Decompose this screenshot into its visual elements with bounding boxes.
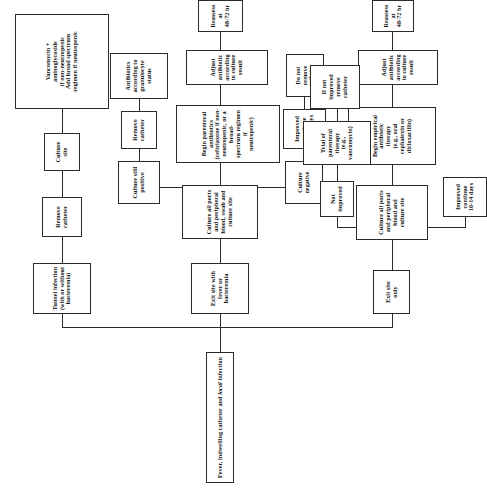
connector-trial-to-ifnotimproved: [337, 109, 338, 121]
node-not-improved: Not improved: [320, 181, 354, 217]
node-if-not-improved-remove-catheter-text: If not improved remove catheter: [321, 68, 348, 106]
node-trial-parenteral-therapy: Trial of parenteral therapy (e.g., vanco…: [303, 121, 371, 165]
node-vancomycin-regimen-text: Vancomycin + aminoglycoside if non-neutr…: [45, 31, 79, 91]
node-if-not-improved-remove-catheter: If not improved remove catheter: [310, 65, 360, 109]
node-exit-site-only-text: Exit site only: [385, 281, 399, 303]
node-begin-empirical-antibiotic-text: Begin empirical antibiotic therapy (e.g.…: [372, 110, 413, 162]
node-exit-site-with-fever-text: Exit site with fever or bacteremia: [210, 271, 230, 306]
node-reassess-mid: Reassess at 48-72 hr: [198, 0, 243, 32]
node-tunnel-infection-text: Tunnel infection (with or without bacter…: [52, 267, 72, 310]
node-adjust-antibiotic-bottom-text: Adjust antibiotic according to culture r…: [381, 53, 415, 82]
connector-culturepos-to-removecath: [139, 149, 140, 161]
node-tunnel-infection: Tunnel infection (with or without bacter…: [33, 263, 91, 314]
connector-exitfever-to-cultureports: [220, 239, 221, 263]
node-reassess-bottom-text: Reassess at 48-72 hr: [383, 3, 403, 29]
connector-fork-to-improvedbottom: [465, 217, 466, 228]
node-antibiotics-granulocyte: Antibiotics according to granulocyte sta…: [110, 53, 168, 99]
node-root-title: Fever, indwelling catheter and local inf…: [206, 352, 234, 483]
node-culture-still-positive: Culture still positive: [118, 161, 160, 204]
connector-remove-to-culturesite: [62, 171, 63, 197]
node-culture-negative: Culture negative: [285, 161, 323, 204]
node-remove-catheter-right-text: Remove catheter: [132, 119, 146, 141]
node-not-improved-text: Not improved: [330, 186, 344, 211]
connector-spine-to-exitfever: [220, 314, 221, 328]
connector-removecath-to-antibiotics: [139, 99, 140, 111]
connector-notimproved-to-trial: [337, 165, 338, 181]
node-culture-all-ports-text: Culture all ports and peripheral blood, …: [206, 190, 233, 234]
node-culture-site-text: Culture site: [55, 142, 69, 163]
node-adjust-antibiotic-bottom: Adjust antibiotic according to culture r…: [358, 50, 438, 85]
node-trial-parenteral-therapy-text: Trial of parenteral therapy (e.g., vanco…: [320, 124, 354, 162]
connector-fork-to-notimproved: [337, 217, 338, 228]
connector-tunnel-to-remove: [62, 237, 63, 263]
connector-root-spine: [62, 327, 392, 328]
node-exit-site-with-fever: Exit site with fever or bacteremia: [191, 263, 249, 314]
node-culture-all-ports-bottom-text: Culture all ports and peripheral blood a…: [378, 190, 405, 234]
node-reassess-mid-text: Reassess at 48-72 hr: [210, 3, 230, 29]
connector-improved-to-donotremove: [304, 97, 305, 109]
node-culture-all-ports: Culture all ports and peripheral blood, …: [182, 185, 258, 239]
connector-culturesite-to-vanco: [62, 109, 63, 133]
node-improved-continue-bottom-text: Improved continue 10-14 days: [455, 183, 475, 211]
node-culture-negative-text: Culture negative: [297, 171, 311, 193]
node-improved-continue-bottom: Improved continue 10-14 days: [443, 177, 487, 217]
node-begin-parenteral-antibiotics-text: Begin parenteral antibiotics (ceftriaxon…: [201, 108, 256, 160]
node-vancomycin-regimen: Vancomycin + aminoglycoside if non-neutr…: [15, 14, 109, 109]
node-remove-catheter-right: Remove catheter: [121, 111, 157, 149]
node-adjust-antibiotic-mid: Adjust antibiotic according to culture r…: [186, 50, 268, 85]
node-adjust-antibiotic-mid-text: Adjust antibiotic according to culture r…: [210, 53, 244, 82]
node-begin-parenteral-antibiotics: Begin parenteral antibiotics (ceftriaxon…: [176, 105, 280, 163]
node-antibiotics-granulocyte-text: Antibiotics according to granulocyte sta…: [125, 59, 152, 92]
node-reassess-bottom: Reassess at 48-72 hr: [372, 0, 414, 32]
node-exit-site-only: Exit site only: [373, 270, 410, 314]
connector-spine-to-exitonly: [392, 314, 393, 328]
connector-root-stem: [220, 328, 221, 352]
node-culture-all-ports-bottom: Culture all ports and peripheral blood a…: [356, 185, 428, 240]
node-root-title-text: Fever, indwelling catheter and local inf…: [217, 357, 224, 478]
node-culture-still-positive-text: Culture still positive: [132, 167, 146, 199]
connector-exitonly-to-cultureports2: [392, 240, 393, 270]
connector-spine-to-tunnel: [62, 314, 63, 328]
node-culture-site: Culture site: [44, 133, 80, 171]
node-remove-catheter-top-text: Remove catheter: [55, 206, 69, 228]
node-remove-catheter-top: Remove catheter: [42, 197, 82, 237]
